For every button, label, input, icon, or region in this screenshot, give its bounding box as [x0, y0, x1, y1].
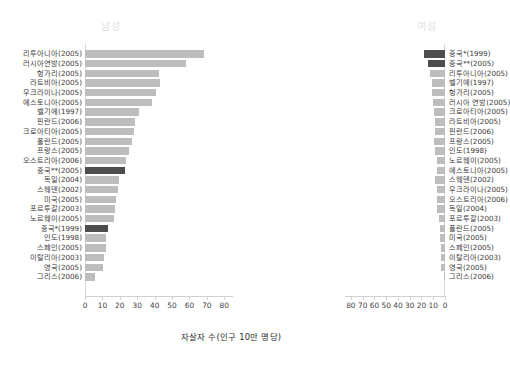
axis-tick-label: 80: [346, 301, 355, 310]
bar: [435, 147, 445, 154]
bar: [428, 60, 445, 67]
bar-row: 폴란드(2005): [345, 224, 445, 234]
category-label: 에스토니아(2005): [445, 166, 508, 176]
bar: [85, 60, 186, 67]
category-label: 스페인(2005): [37, 243, 85, 253]
category-label: 헝가리(2005): [37, 69, 85, 79]
bar-row: 스웨덴(2002): [85, 185, 233, 195]
category-label: 벨기에(1997): [37, 107, 85, 117]
category-label: 그리스(2006): [445, 272, 494, 282]
bar: [85, 138, 132, 145]
category-label: 스웨덴(2002): [445, 175, 494, 185]
bar: [433, 99, 445, 106]
axis-tick: [351, 296, 352, 300]
bar-row: 영국(2005): [345, 263, 445, 273]
category-label: 노르웨이(2005): [30, 214, 85, 224]
bar: [85, 244, 106, 251]
axis-tick-label: 50: [381, 301, 390, 310]
category-label: 이탈리아(2003): [445, 253, 501, 263]
axis-tick-label: 60: [185, 301, 194, 310]
bar: [85, 108, 139, 115]
bar-row: 라트비아(2005): [85, 78, 233, 88]
bar: [435, 118, 445, 125]
category-label: 그리스(2006): [37, 272, 85, 282]
axis-tick: [172, 296, 173, 300]
category-label: 인도(1998): [44, 233, 85, 243]
bar-row: 프랑스(2005): [85, 146, 233, 156]
bar-row: 독일(2004): [85, 175, 233, 185]
bar-row: 라트비아(2005): [345, 117, 445, 127]
axis-tick-label: 80: [220, 301, 229, 310]
bar-row: 핀란드(2006): [345, 127, 445, 137]
bar-row: 우크라이나(2005): [345, 185, 445, 195]
bar-row: 노르웨이(2005): [345, 156, 445, 166]
axis-tick: [85, 296, 86, 300]
male-axis-line: [85, 296, 233, 297]
male-x-axis: 01020304050607080: [85, 296, 233, 302]
bar: [85, 176, 119, 183]
bar-row: 그리스(2006): [85, 272, 233, 282]
bar: [432, 79, 445, 86]
category-label: 우크라이나(2005): [445, 185, 508, 195]
bar-row: 벨기에(1997): [345, 78, 445, 88]
bar: [85, 254, 104, 261]
axis-tick: [224, 296, 225, 300]
category-label: 이탈리아(2003): [30, 253, 85, 263]
bar: [437, 157, 445, 164]
category-label: 오스트리아(2006): [445, 195, 508, 205]
category-label: 노르웨이(2005): [445, 156, 501, 166]
axis-tick: [421, 296, 422, 300]
axis-tick-label: 30: [133, 301, 142, 310]
bar: [437, 196, 445, 203]
category-label: 영국(2005): [445, 263, 487, 273]
axis-tick: [363, 296, 364, 300]
axis-tick: [445, 296, 446, 300]
bar: [85, 215, 114, 222]
category-label: 리투아니아(2005): [23, 49, 85, 59]
bar-row: 미국(2005): [345, 233, 445, 243]
category-label: 러시아 연방(2005): [445, 98, 510, 108]
axis-tick: [386, 296, 387, 300]
bar-row: 크로아티아(2005): [85, 127, 233, 137]
axis-tick-label: 10: [98, 301, 107, 310]
bar-row: 인도(1998): [345, 146, 445, 156]
category-label: 미국(2005): [445, 233, 487, 243]
category-label: 프랑스(2005): [445, 137, 494, 147]
category-label: 중국**(2005): [37, 166, 85, 176]
bar-row: 러시아 연방(2005): [345, 98, 445, 108]
bar-row: 중국*(1999): [85, 224, 233, 234]
category-label: 에스토니아(2005): [23, 98, 85, 108]
category-label: 러시아연방(2005): [23, 59, 85, 69]
category-label: 중국*(1999): [41, 224, 86, 234]
axis-tick-label: 70: [358, 301, 367, 310]
bar: [85, 264, 103, 271]
category-label: 스웨덴(2002): [37, 185, 85, 195]
bar: [437, 186, 445, 193]
bar: [434, 108, 445, 115]
axis-tick-label: 0: [83, 301, 88, 310]
bar-row: 폴란드(2005): [85, 137, 233, 147]
bar-row: 헝가리(2005): [345, 88, 445, 98]
bar: [85, 99, 152, 106]
axis-tick-label: 20: [417, 301, 426, 310]
bar: [432, 89, 445, 96]
axis-tick-label: 60: [370, 301, 379, 310]
category-label: 핀란드(2006): [37, 117, 85, 127]
bar: [435, 176, 445, 183]
axis-tick: [155, 296, 156, 300]
bar-row: 벨기에(1997): [85, 107, 233, 117]
bar-row: 이탈리아(2003): [345, 253, 445, 263]
axis-tick-label: 70: [202, 301, 211, 310]
x-axis-title: 자살자 수(인구 10만 명당): [0, 330, 462, 342]
bar: [85, 128, 134, 135]
axis-tick: [207, 296, 208, 300]
bar: [85, 186, 118, 193]
bar-row: 에스토니아(2005): [85, 98, 233, 108]
bar-row: 영국(2005): [85, 263, 233, 273]
male-bar-panel: 리투아니아(2005)러시아연방(2005)헝가리(2005)라트비아(2005…: [85, 44, 233, 296]
bar: [85, 50, 204, 57]
category-label: 폴란드(2005): [445, 224, 494, 234]
axis-tick: [120, 296, 121, 300]
bar: [437, 205, 445, 212]
bar-row: 중국**(2005): [85, 166, 233, 176]
